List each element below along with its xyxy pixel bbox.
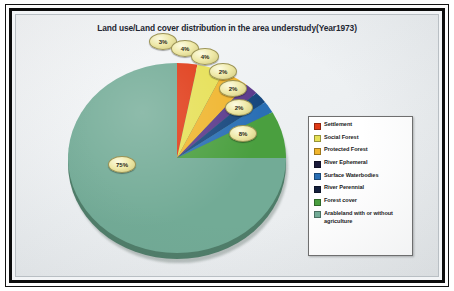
legend-color-swatch-icon (314, 186, 321, 193)
slice-value-callout: 2% (209, 63, 237, 80)
legend-item-label: Arableland with or without agriculture (324, 210, 409, 225)
slice-value-callout: 8% (229, 125, 257, 142)
slice-value-callout: 2% (219, 80, 247, 97)
pie-chart (60, 49, 300, 261)
frame-inner-border: Land use/Land cover distribution in the … (9, 8, 445, 283)
pie-slices[interactable] (68, 63, 286, 253)
legend-item-label: River Perennial (324, 184, 364, 192)
legend-item[interactable]: Settlement (314, 121, 409, 130)
legend-item[interactable]: Surface Waterbodies (314, 172, 409, 181)
legend-color-swatch-icon (314, 173, 321, 180)
legend-color-swatch-icon (314, 123, 321, 130)
slice-value-callout: 75% (108, 156, 136, 173)
slice-value-callout: 2% (225, 99, 253, 116)
legend-color-swatch-icon (314, 148, 321, 155)
legend-item-label: Forest cover (324, 197, 357, 205)
legend-item-label: Social Forest (324, 134, 358, 142)
legend-item[interactable]: River Perennial (314, 184, 409, 193)
legend-item[interactable]: Arableland with or without agriculture (314, 210, 409, 225)
photographed-chart-page: Land use/Land cover distribution in the … (0, 0, 454, 291)
legend-item-label: Protected Forest (324, 146, 368, 154)
chart-legend[interactable]: SettlementSocial ForestProtected ForestR… (308, 116, 413, 256)
frame-outer-border: Land use/Land cover distribution in the … (5, 4, 449, 287)
legend-item-label: Settlement (324, 121, 352, 129)
legend-item[interactable]: Protected Forest (314, 146, 409, 155)
slice-value-callout: 4% (191, 48, 219, 65)
legend-color-swatch-icon (314, 199, 321, 206)
legend-item[interactable]: River Ephemeral (314, 159, 409, 168)
legend-item-label: Surface Waterbodies (324, 172, 379, 180)
legend-color-swatch-icon (314, 211, 321, 218)
page-title: Land use/Land cover distribution in the … (16, 23, 438, 33)
legend-item-label: River Ephemeral (324, 159, 367, 167)
chart-canvas: Land use/Land cover distribution in the … (15, 14, 439, 277)
legend-item[interactable]: Forest cover (314, 197, 409, 206)
legend-color-swatch-icon (314, 135, 321, 142)
legend-color-swatch-icon (314, 161, 321, 168)
legend-item[interactable]: Social Forest (314, 134, 409, 143)
